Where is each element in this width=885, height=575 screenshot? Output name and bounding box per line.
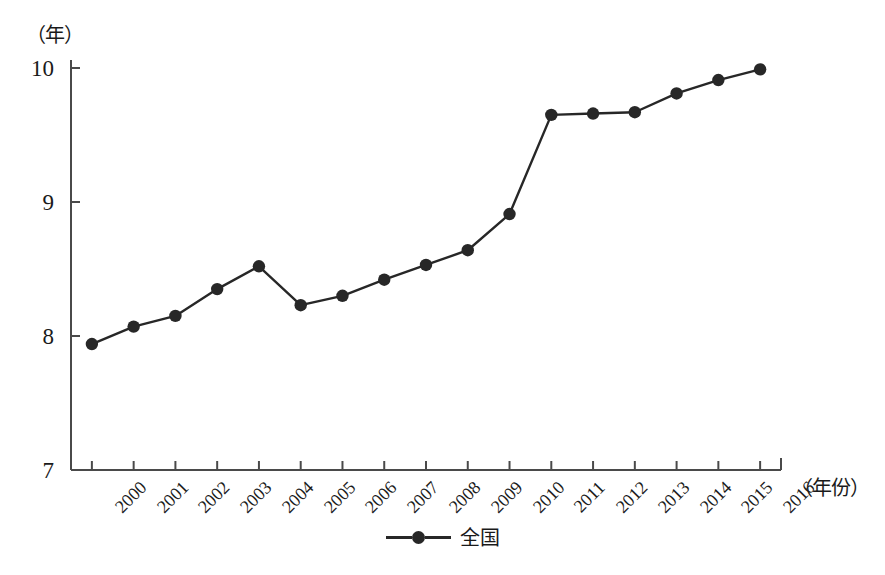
y-tick-marks (71, 68, 80, 470)
data-point-marker (545, 109, 557, 121)
chart-container: （年） （年份） 10987 2000200120022003200420052… (0, 0, 885, 575)
data-point-marker (295, 299, 307, 311)
chart-legend: 全国 (0, 522, 885, 548)
data-point-marker (86, 338, 98, 350)
data-point-marker (378, 274, 390, 286)
data-point-marker (336, 290, 348, 302)
data-point-marker (211, 283, 223, 295)
data-point-marker (670, 87, 682, 99)
figure-caption (0, 566, 885, 575)
legend-line-glyph (425, 536, 451, 539)
x-tick-marks (92, 461, 760, 470)
data-point-marker (127, 320, 139, 332)
y-tick-label: 7 (20, 459, 54, 482)
data-point-marker (462, 244, 474, 256)
data-point-marker (420, 259, 432, 271)
data-point-marker (169, 310, 181, 322)
data-point-marker (754, 63, 766, 75)
y-tick-label: 8 (20, 325, 54, 348)
data-point-marker (503, 208, 515, 220)
y-tick-label: 10 (20, 57, 54, 80)
data-point-marker (629, 106, 641, 118)
legend-line-glyph (386, 536, 412, 539)
data-point-marker (712, 74, 724, 86)
y-tick-label: 9 (20, 191, 54, 214)
legend-item-national: 全国 (386, 528, 500, 548)
legend-label: 全国 (460, 528, 500, 548)
data-series-layer (86, 63, 767, 350)
series-line (92, 69, 760, 344)
legend-marker-icon (412, 531, 425, 544)
data-point-marker (587, 107, 599, 119)
data-point-marker (253, 260, 265, 272)
